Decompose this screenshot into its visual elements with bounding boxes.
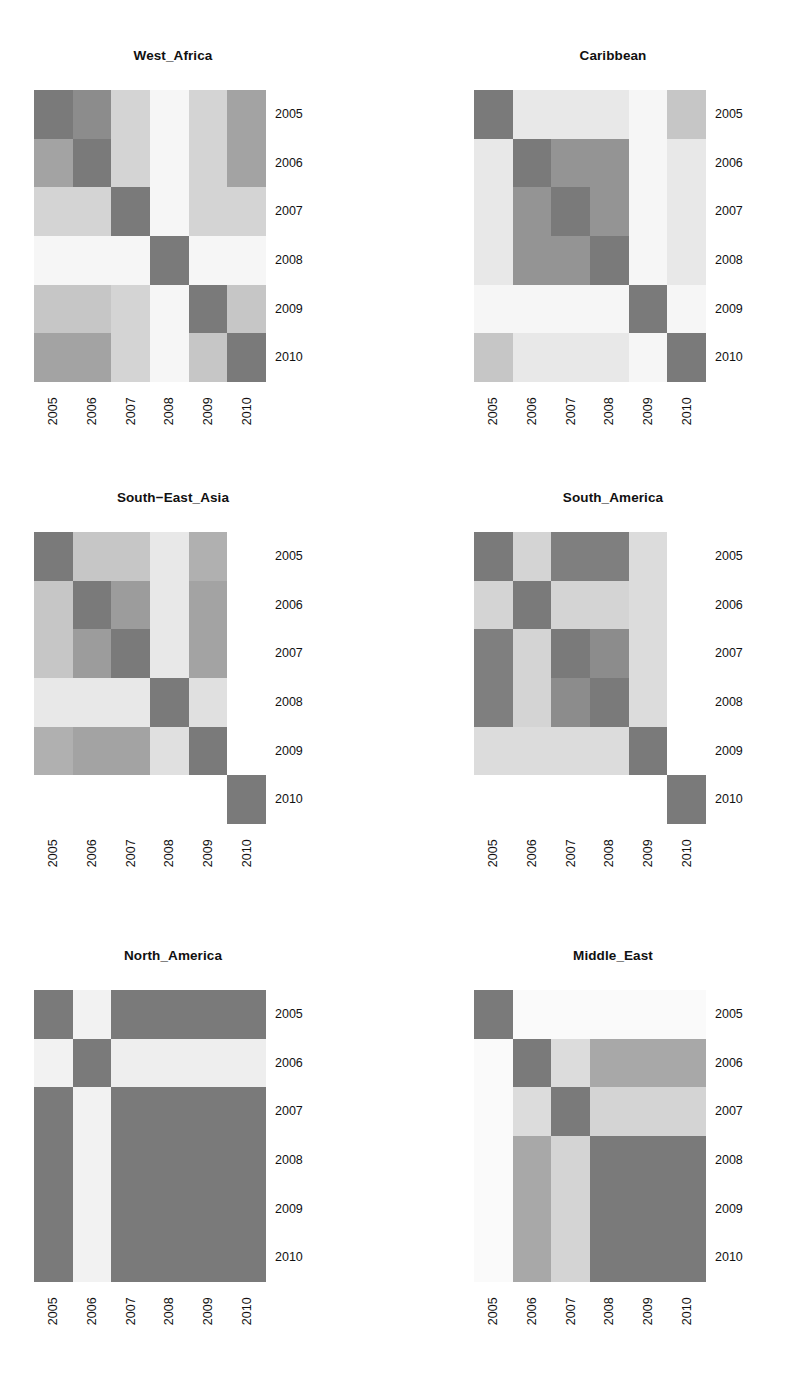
x-axis-tick-label: 2006 — [73, 388, 112, 448]
heatmap-cell — [474, 1233, 513, 1282]
heatmap-cell — [150, 1233, 189, 1282]
heatmap-plot-caribbean — [474, 90, 706, 382]
panel-south-america: South_America200520062007200820092010200… — [468, 490, 789, 920]
heatmap-cell — [189, 1233, 228, 1282]
heatmap-cells-west-africa — [34, 90, 266, 382]
heatmap-cell — [111, 333, 150, 382]
heatmap-cell — [189, 1039, 228, 1088]
heatmap-cell — [629, 90, 668, 139]
heatmap-cell — [73, 187, 112, 236]
heatmap-cell — [667, 90, 706, 139]
heatmap-cell — [667, 1185, 706, 1234]
heatmap-cell — [34, 187, 73, 236]
y-axis-tick-label: 2007 — [271, 629, 341, 678]
x-axis-tick-text: 2008 — [163, 397, 176, 425]
heatmap-cell — [111, 532, 150, 581]
heatmap-cell — [150, 187, 189, 236]
heatmap-cell — [590, 678, 629, 727]
heatmap-cell — [590, 236, 629, 285]
heatmap-cell — [667, 775, 706, 824]
x-axis-tick-text: 2006 — [526, 1297, 539, 1325]
heatmap-cell — [590, 139, 629, 188]
panel-west-africa: West_Africa20052006200720082009201020052… — [28, 48, 388, 478]
x-axis-tick-text: 2007 — [124, 839, 137, 867]
x-axis-tick-label: 2005 — [34, 1288, 73, 1348]
y-axis-tick-label: 2007 — [271, 1087, 341, 1136]
heatmap-cell — [667, 187, 706, 236]
heatmap-cell — [150, 139, 189, 188]
heatmap-cell — [34, 333, 73, 382]
heatmap-cell — [111, 678, 150, 727]
heatmap-cell — [590, 1136, 629, 1185]
heatmap-cell — [629, 139, 668, 188]
heatmap-cell — [551, 1039, 590, 1088]
y-axis-labels-west-africa: 200520062007200820092010 — [271, 90, 341, 382]
heatmap-cell — [73, 1087, 112, 1136]
heatmap-cell — [667, 236, 706, 285]
x-axis-tick-text: 2010 — [680, 397, 693, 425]
heatmap-cell — [629, 1233, 668, 1282]
heatmap-plot-south-america — [474, 532, 706, 824]
x-axis-tick-label: 2008 — [150, 830, 189, 890]
heatmap-cell — [590, 1039, 629, 1088]
x-axis-tick-text: 2009 — [202, 397, 215, 425]
y-axis-tick-label: 2007 — [271, 187, 341, 236]
heatmap-cell — [590, 90, 629, 139]
x-axis-tick-label: 2005 — [34, 830, 73, 890]
heatmap-cell — [513, 236, 552, 285]
heatmap-cell — [227, 139, 266, 188]
heatmap-cell — [590, 1185, 629, 1234]
y-axis-tick-label: 2008 — [711, 236, 781, 285]
heatmap-cell — [34, 1185, 73, 1234]
y-axis-tick-label: 2005 — [711, 532, 781, 581]
heatmap-cell — [111, 581, 150, 630]
x-axis-tick-text: 2010 — [680, 839, 693, 867]
heatmap-cell — [111, 1039, 150, 1088]
x-axis-tick-label: 2009 — [629, 830, 668, 890]
heatmap-cell — [34, 285, 73, 334]
y-axis-tick-label: 2006 — [711, 581, 781, 630]
heatmap-cell — [513, 187, 552, 236]
heatmap-cell — [227, 1039, 266, 1088]
heatmap-cell — [189, 285, 228, 334]
heatmap-cell — [189, 629, 228, 678]
panel-title-south-america: South_America — [468, 490, 758, 505]
y-axis-tick-label: 2008 — [711, 1136, 781, 1185]
heatmap-cell — [629, 1185, 668, 1234]
heatmap-cell — [551, 775, 590, 824]
heatmap-cell — [150, 581, 189, 630]
x-axis-tick-label: 2010 — [667, 1288, 706, 1348]
heatmap-cell — [150, 285, 189, 334]
heatmap-cell — [111, 1185, 150, 1234]
heatmap-cell — [513, 1087, 552, 1136]
x-axis-tick-label: 2009 — [629, 1288, 668, 1348]
x-axis-tick-label: 2006 — [513, 1288, 552, 1348]
heatmap-cell — [551, 1136, 590, 1185]
y-axis-tick-label: 2006 — [711, 139, 781, 188]
heatmap-cell — [551, 139, 590, 188]
heatmap-cell — [111, 139, 150, 188]
heatmap-cell — [227, 1087, 266, 1136]
x-axis-tick-text: 2006 — [86, 1297, 99, 1325]
heatmap-cell — [474, 990, 513, 1039]
x-axis-tick-text: 2007 — [124, 1297, 137, 1325]
heatmap-cell — [474, 139, 513, 188]
heatmap-cell — [73, 333, 112, 382]
x-axis-tick-text: 2006 — [526, 839, 539, 867]
x-axis-labels-caribbean: 200520062007200820092010 — [474, 388, 706, 448]
x-axis-tick-label: 2008 — [150, 388, 189, 448]
heatmap-cell — [227, 333, 266, 382]
heatmap-cell — [474, 333, 513, 382]
heatmap-cell — [590, 775, 629, 824]
panel-south-east-asia: South−East_Asia2005200620072008200920102… — [28, 490, 388, 920]
x-axis-tick-text: 2010 — [240, 839, 253, 867]
heatmap-cell — [189, 1136, 228, 1185]
heatmap-cell — [629, 1087, 668, 1136]
heatmap-cell — [150, 236, 189, 285]
heatmap-cell — [227, 1136, 266, 1185]
panel-title-west-africa: West_Africa — [28, 48, 318, 63]
heatmap-cell — [629, 990, 668, 1039]
heatmap-cell — [73, 532, 112, 581]
heatmap-cell — [150, 1039, 189, 1088]
heatmap-cell — [551, 1233, 590, 1282]
